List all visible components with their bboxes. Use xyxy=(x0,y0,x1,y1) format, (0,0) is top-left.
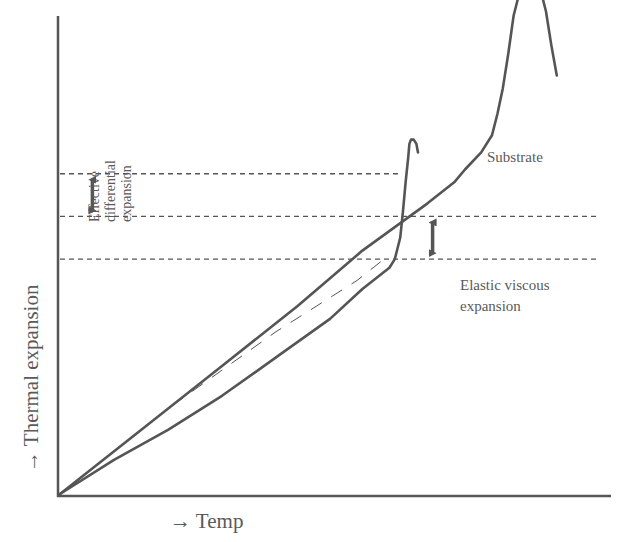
left-annotation-line-2: differential xyxy=(103,160,118,222)
curve-label-substrate: Substrate xyxy=(487,149,543,165)
series-glaze-reference xyxy=(60,259,384,494)
left-annotation: Effective differential expansion xyxy=(87,160,134,222)
right-annotation-line-2: expansion xyxy=(460,298,521,314)
x-axis-label: → Temp xyxy=(170,509,243,533)
right-annotation-line-1: Elastic viscous xyxy=(460,277,550,293)
left-annotation-line-1: Effective xyxy=(87,171,102,222)
y-axis-label: → Thermal expansion xyxy=(19,284,43,472)
series-substrate xyxy=(60,0,557,494)
thermal-expansion-diagram: Substrate → Thermal expansion → Temp Eff… xyxy=(0,0,624,542)
left-annotation-line-3: expansion xyxy=(119,165,134,222)
